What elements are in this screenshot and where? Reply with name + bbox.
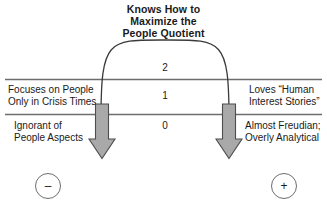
minus-icon: – (36, 174, 60, 198)
label-top-right: Loves “Human Interest Stories” (249, 84, 320, 108)
left-down-arrow-icon (89, 104, 115, 159)
diagram-title: Knows How to Maximize the People Quotien… (0, 3, 327, 39)
plus-icon: + (272, 174, 296, 198)
label-bottom-right: Almost Freudian; Overly Analytical (245, 120, 321, 144)
diagram-canvas: Knows How to Maximize the People Quotien… (0, 0, 327, 210)
label-bottom-left: Ignorant of People Aspects (14, 120, 83, 144)
scale-number-2: 2 (150, 62, 180, 73)
positive-pole-marker: + (271, 173, 297, 199)
label-top-left: Focuses on People Only in Crisis Times (8, 84, 96, 108)
scale-number-0: 0 (150, 120, 180, 131)
scale-number-1: 1 (150, 90, 180, 101)
right-down-arrow-icon (216, 104, 242, 159)
negative-pole-marker: – (35, 173, 61, 199)
